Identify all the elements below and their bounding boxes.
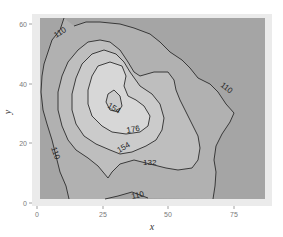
y-axis-title: y (2, 109, 13, 115)
y-tick-label: 0 (23, 200, 27, 207)
x-tick-label: 75 (230, 211, 238, 218)
x-tick-label: 0 (35, 211, 39, 218)
contour-fill (40, 18, 265, 199)
contour-label: 132 (143, 158, 157, 167)
x-tick-label: 25 (99, 211, 107, 218)
y-tick-label: 60 (19, 21, 27, 28)
x-tick-label: 50 (164, 211, 172, 218)
contour-chart: 110 110 110 110 154 176 154 132 60 40 20… (0, 0, 283, 237)
y-tick-label: 20 (19, 140, 27, 147)
y-tick-label: 40 (19, 81, 27, 88)
x-axis-title: x (149, 221, 155, 232)
